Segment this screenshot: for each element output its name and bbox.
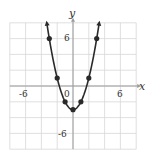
- y-tick-label-neg6: -6: [58, 129, 67, 139]
- data-point: [63, 99, 68, 104]
- data-point: [86, 76, 91, 81]
- data-point: [47, 36, 52, 41]
- parabola-chart: x y -6 6 6 -6 0: [0, 0, 151, 160]
- data-point: [78, 99, 83, 104]
- data-point: [94, 36, 99, 41]
- origin-label: 0: [64, 89, 70, 99]
- axes: [10, 18, 141, 149]
- x-tick-label-neg6: -6: [19, 89, 28, 99]
- data-point: [70, 107, 75, 112]
- x-axis-label: x: [139, 80, 146, 93]
- y-tick-label-6: 6: [64, 33, 70, 43]
- data-point: [55, 76, 60, 81]
- x-tick-label-6: 6: [117, 89, 123, 99]
- y-axis-label: y: [68, 7, 76, 20]
